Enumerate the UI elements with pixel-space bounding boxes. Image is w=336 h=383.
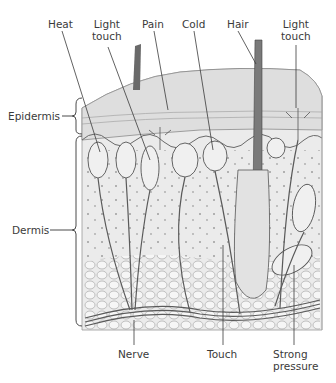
epidermis-bracket xyxy=(72,98,82,134)
label-epidermis: Epidermis xyxy=(8,110,60,122)
label-line: Light xyxy=(281,18,311,30)
hair-leader xyxy=(238,31,256,64)
label-line: pressure xyxy=(273,360,318,372)
label-dermis: Dermis xyxy=(12,224,49,236)
layer-brackets xyxy=(50,98,82,326)
heat-receptor xyxy=(88,142,108,178)
light-touch-receptor xyxy=(141,146,159,190)
label-line: Strong xyxy=(273,348,318,360)
label-light-touch-1: Light touch xyxy=(92,18,122,42)
label-light-touch-2: Light touch xyxy=(281,18,311,42)
label-heat: Heat xyxy=(48,18,73,30)
label-pain: Pain xyxy=(142,18,164,30)
label-nerve: Nerve xyxy=(118,348,149,360)
label-cold: Cold xyxy=(182,18,205,30)
cold-receptor xyxy=(203,141,227,171)
skin-cross-section-illustration xyxy=(0,0,336,383)
label-line: touch xyxy=(281,30,311,42)
label-line: Light xyxy=(92,18,122,30)
dermis-bracket xyxy=(72,136,82,326)
label-strong-pressure: Strong pressure xyxy=(273,348,318,372)
label-touch: Touch xyxy=(207,348,237,360)
label-line: touch xyxy=(92,30,122,42)
label-hair: Hair xyxy=(227,18,249,30)
skin-block xyxy=(82,68,322,330)
